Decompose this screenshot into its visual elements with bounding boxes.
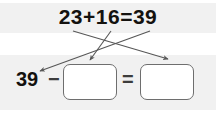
addition-equation: 23+16=39 bbox=[0, 5, 216, 29]
subtrahend-box[interactable] bbox=[63, 64, 117, 100]
minuend-39: 39 bbox=[16, 67, 38, 91]
equals-operator: = bbox=[122, 67, 134, 91]
subtraction-equation: 39 − = bbox=[0, 55, 216, 110]
minus-operator: − bbox=[48, 67, 60, 91]
worksheet-canvas: 23+16=39 39 − = bbox=[0, 0, 216, 114]
difference-box[interactable] bbox=[140, 64, 194, 100]
